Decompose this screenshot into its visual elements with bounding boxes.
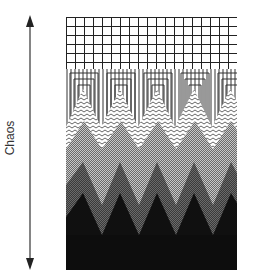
axis-label: Chaos [3, 116, 17, 160]
pattern-layers [66, 17, 237, 270]
chaos-axis: Chaos [0, 0, 60, 280]
pattern-diagram [66, 17, 237, 270]
